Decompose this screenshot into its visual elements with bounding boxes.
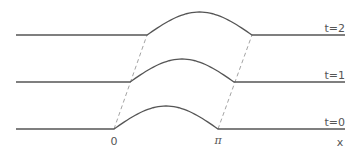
wave-profile-t0 — [16, 106, 345, 129]
profile-label-t2: t=2 — [324, 23, 345, 34]
tick-label-pi: π — [214, 135, 221, 146]
profile-label-t0: t=0 — [324, 117, 345, 128]
wave-profiles — [16, 12, 345, 129]
x-axis-label: x — [337, 137, 344, 148]
wave-profile-t1 — [16, 59, 345, 82]
wave-propagation-diagram — [0, 0, 360, 152]
tick-label-zero: 0 — [111, 136, 118, 147]
wave-profile-t2 — [16, 12, 345, 35]
profile-label-t1: t=1 — [324, 70, 345, 81]
